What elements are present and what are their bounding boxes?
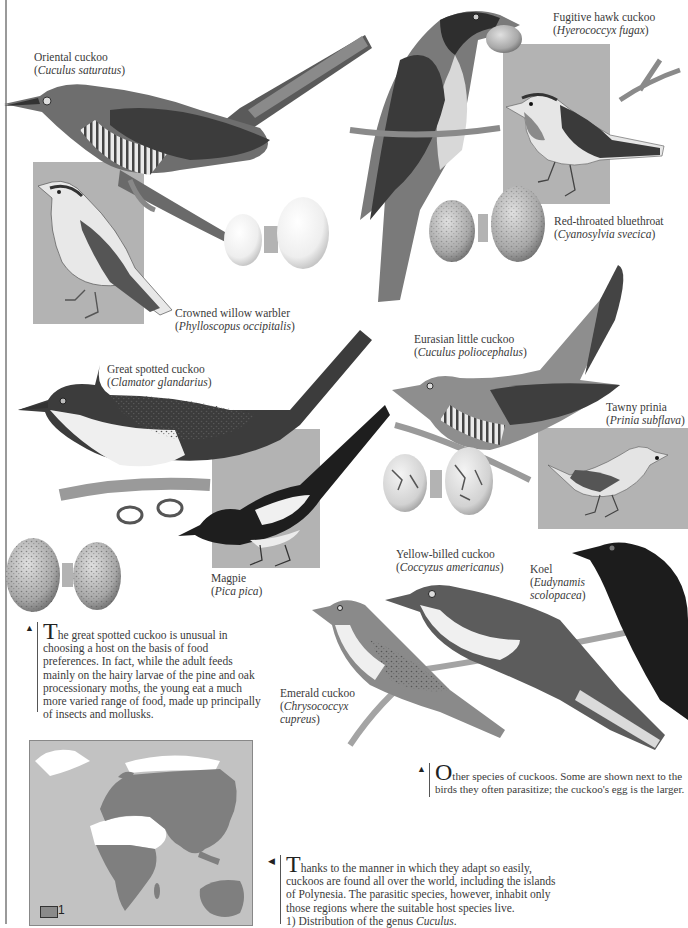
label-eurasian-little-cuckoo: Eurasian little cuckoo (Cuculus poliocep…	[414, 333, 527, 359]
scientific-name: Cyanosylvia svecica	[558, 228, 652, 240]
pointer-up-icon: ▲	[25, 622, 34, 635]
caption-rule	[37, 622, 38, 712]
caption-text: The great spotted cuckoo is unusual in c…	[43, 622, 261, 721]
common-name: Yellow-billed cuckoo	[396, 548, 504, 561]
drop-cap: T	[43, 618, 58, 644]
world-map-graphic	[30, 741, 252, 925]
caption-text: Other species of cuckoos. Some are shown…	[435, 763, 684, 796]
bluethroat-eggs	[429, 186, 545, 262]
caption-rule	[280, 855, 281, 924]
scientific-name: Cuculus poliocephalus	[418, 346, 523, 358]
eurasian-little-cuckoo-eggs	[383, 447, 493, 515]
great-spotted-cuckoo-eggs	[6, 538, 121, 612]
label-oriental-cuckoo: Oriental cuckoo (Cuculus saturatus)	[34, 51, 125, 77]
eurasian-little-cuckoo-illustration	[392, 265, 623, 480]
map-legend-swatch	[40, 906, 58, 918]
caption-rule	[429, 763, 430, 797]
label-tawny-prinia: Tawny prinia (Prinia subflava)	[606, 401, 685, 427]
scientific-name: Clamator glandarius	[111, 376, 208, 388]
label-yellow-billed-cuckoo: Yellow-billed cuckoo (Coccyzus americanu…	[396, 548, 504, 574]
map-footnote: 1) Distribution of the genus Cuculus.	[286, 915, 556, 928]
common-name: Tawny prinia	[606, 401, 685, 414]
label-koel: Koel (Eudynamis scolopacea)	[530, 563, 586, 602]
common-name: Magpie	[211, 572, 262, 585]
oriental-cuckoo-eggs	[224, 197, 329, 269]
caption-great-spotted-cuckoo: ▲ The great spotted cuckoo is unusual in…	[25, 622, 325, 712]
red-throated-bluethroat-illustration	[506, 94, 664, 196]
drop-cap: T	[286, 851, 301, 877]
common-name: Oriental cuckoo	[34, 51, 125, 64]
distribution-map	[29, 740, 253, 926]
pointer-up-icon: ▲	[417, 763, 426, 776]
scientific-name-line2: cupreus	[280, 713, 316, 725]
common-name: Red-throated bluethroat	[554, 215, 664, 228]
scientific-name: Cuculus saturatus	[38, 64, 121, 76]
label-great-spotted-cuckoo: Great spotted cuckoo (Clamator glandariu…	[107, 363, 212, 389]
pointer-left-icon: ◀	[268, 855, 275, 868]
map-legend-number: 1	[58, 903, 65, 917]
scientific-name-line1: Eudynamis	[534, 576, 585, 588]
scientific-name: Prinia subflava	[610, 414, 681, 426]
scientific-name: Coccyzus americanus	[400, 561, 500, 573]
common-name: Fugitive hawk cuckoo	[553, 11, 655, 24]
caption-text: Thanks to the manner in which they adapt…	[286, 855, 556, 928]
label-crowned-willow-warbler: Crowned willow warbler (Phylloscopus occ…	[175, 307, 295, 333]
drop-cap: O	[435, 759, 452, 785]
label-red-throated-bluethroat: Red-throated bluethroat (Cyanosylvia sve…	[554, 215, 664, 241]
label-fugitive-hawk-cuckoo: Fugitive hawk cuckoo (Hyerococcyx fugax)	[553, 11, 655, 37]
scientific-name: Phylloscopus occipitalis	[179, 320, 291, 332]
common-name: Eurasian little cuckoo	[414, 333, 527, 346]
common-name: Crowned willow warbler	[175, 307, 295, 320]
scientific-name: Pica pica	[215, 585, 259, 597]
common-name: Koel	[530, 563, 586, 576]
label-magpie: Magpie (Pica pica)	[211, 572, 262, 598]
scientific-name-line2: scolopacea	[530, 589, 582, 601]
scientific-name: Hyerococcyx fugax	[557, 24, 645, 36]
caption-distribution: ◀ Thanks to the manner in which they ada…	[268, 855, 568, 924]
common-name: Great spotted cuckoo	[107, 363, 212, 376]
tawny-prinia-illustration	[548, 447, 668, 517]
caption-other-species: ▲ Other species of cuckoos. Some are sho…	[417, 763, 688, 797]
